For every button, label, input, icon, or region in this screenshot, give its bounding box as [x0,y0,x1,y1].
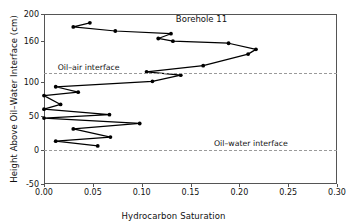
x-tick-label: 0.30 [328,188,346,197]
data-point [201,64,205,68]
data-point [96,144,100,148]
data-point [108,113,112,117]
x-tick-mark [337,184,338,187]
chart-title: Borehole 11 [176,14,227,24]
data-point [156,37,160,41]
data-point [169,32,173,36]
y-axis-title: Height Above Oil–Water Interface (cm) [9,14,19,184]
x-tick-label: 0.05 [84,188,102,197]
data-point [254,47,258,51]
y-tick-label: -50 [26,180,39,189]
data-point [113,29,117,33]
x-tick-label: 0.00 [35,188,53,197]
data-series-layer [0,0,300,150]
data-point [109,135,113,139]
data-point [246,52,250,56]
y-tick-label: 100 [24,78,39,87]
data-point [42,107,46,111]
y-tick-mark [41,14,44,15]
y-tick-mark [41,184,44,185]
data-point [54,139,58,143]
y-tick-mark [41,116,44,117]
oil-air-interface-label: Oil–air interface [56,63,122,72]
data-point [151,79,155,83]
x-tick-label: 0.20 [230,188,248,197]
x-tick-mark [142,184,143,187]
data-point [76,90,80,94]
x-tick-mark [288,184,289,187]
y-tick-mark [41,41,44,42]
data-point [59,103,63,107]
x-tick-label: 0.10 [133,188,151,197]
data-line [44,23,256,146]
oil-water-interface-line [44,150,337,151]
y-tick-label: 200 [24,10,39,19]
x-tick-mark [93,184,94,187]
data-point [54,85,58,89]
data-point [227,41,231,45]
data-point [88,21,92,25]
oil-air-interface-line [44,73,337,74]
data-point [171,39,175,43]
data-point [71,25,75,29]
data-point [138,122,142,126]
x-tick-mark [44,184,45,187]
y-tick-mark [41,82,44,83]
y-tick-label: 0 [34,146,39,155]
x-tick-mark [191,184,192,187]
oil-water-interface-label: Oil–water interface [212,139,290,148]
y-tick-label: 50 [29,112,39,121]
data-point [71,127,75,131]
y-tick-label: 160 [24,37,39,46]
x-tick-mark [239,184,240,187]
chart-figure: 0.000.050.100.150.200.250.30200160100500… [0,0,347,222]
x-tick-label: 0.15 [182,188,200,197]
data-point [42,94,46,98]
x-tick-label: 0.25 [279,188,297,197]
x-axis-title: Hydrocarbon Saturation [0,211,347,221]
data-point-group [42,21,258,148]
